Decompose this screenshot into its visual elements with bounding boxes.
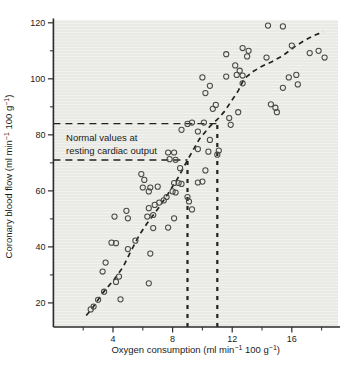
annotation-line: resting cardiac output bbox=[66, 145, 157, 156]
y-axis-label: Coronary blood flow (ml min−1 100 g−1) bbox=[3, 95, 14, 259]
y-tick-label: 100 bbox=[30, 74, 45, 84]
y-tick-label: 40 bbox=[35, 242, 45, 252]
x-tick-label: 8 bbox=[170, 334, 175, 344]
x-tick-label: 16 bbox=[287, 334, 297, 344]
chart-svg: 48121620406080100120Oxygen consumption (… bbox=[0, 0, 342, 366]
y-tick-label: 120 bbox=[30, 18, 45, 28]
coronary-blood-flow-figure: 48121620406080100120Oxygen consumption (… bbox=[0, 0, 342, 366]
x-axis-label: Oxygen consumption (ml min−1 100 g−1) bbox=[111, 344, 280, 355]
y-tick-label: 20 bbox=[35, 298, 45, 308]
y-tick-label: 80 bbox=[35, 130, 45, 140]
y-tick-label: 60 bbox=[35, 186, 45, 196]
x-tick-label: 4 bbox=[110, 334, 115, 344]
annotation-line: Normal values at bbox=[66, 132, 138, 143]
plot-area bbox=[53, 20, 338, 327]
x-tick-label: 12 bbox=[227, 334, 237, 344]
